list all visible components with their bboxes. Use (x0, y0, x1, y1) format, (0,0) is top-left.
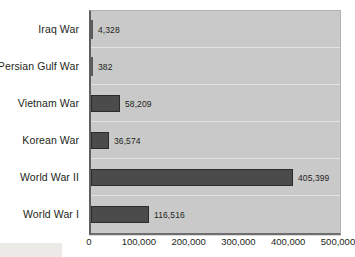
category-label-vietnam-war: Vietnam War (0, 84, 85, 121)
bar-value-world-war-ii: 405,399 (298, 173, 329, 183)
bars-layer: 4,328 382 58,209 36,574 405,399 116,516 (91, 11, 340, 233)
category-label-persian-gulf-war: Persian Gulf War (0, 47, 85, 84)
bar-vietnam-war[interactable] (91, 95, 120, 112)
x-tick-label-400000: 400,000 (271, 236, 305, 247)
x-tick-label-200000: 200,000 (171, 236, 205, 247)
category-label-korean-war: Korean War (0, 121, 85, 158)
x-axis: 0 100,000 200,000 300,000 400,000 500,00… (89, 236, 339, 254)
bar-row: 58,209 (91, 85, 340, 122)
bar-row: 382 (91, 48, 340, 85)
x-tick-label-500000: 500,000 (321, 236, 355, 247)
category-label-world-war-i: World War I (0, 195, 85, 232)
bar-persian-gulf-war[interactable] (91, 57, 93, 76)
bar-row: 116,516 (91, 196, 340, 233)
bar-korean-war[interactable] (91, 132, 109, 149)
bar-world-war-i[interactable] (91, 206, 149, 223)
category-axis: Iraq War Persian Gulf War Vietnam War Ko… (0, 10, 85, 232)
category-label-iraq-war: Iraq War (0, 10, 85, 47)
x-tick-label-100000: 100,000 (122, 236, 156, 247)
bar-value-iraq-war: 4,328 (98, 25, 120, 35)
bar-value-korean-war: 36,574 (114, 136, 141, 146)
x-tick-label-0: 0 (86, 236, 91, 247)
scan-artifact (0, 243, 62, 257)
bar-value-persian-gulf-war: 382 (98, 62, 112, 72)
x-tick-label-300000: 300,000 (221, 236, 255, 247)
bar-value-vietnam-war: 58,209 (125, 99, 152, 109)
bar-iraq-war[interactable] (91, 20, 93, 39)
bar-row: 36,574 (91, 122, 340, 159)
bar-row: 4,328 (91, 11, 340, 48)
bar-row: 405,399 (91, 159, 340, 196)
category-label-world-war-ii: World War II (0, 158, 85, 195)
bar-world-war-ii[interactable] (91, 169, 293, 186)
bar-value-world-war-i: 116,516 (154, 210, 185, 220)
plot-area: 4,328 382 58,209 36,574 405,399 116,516 (89, 10, 341, 235)
